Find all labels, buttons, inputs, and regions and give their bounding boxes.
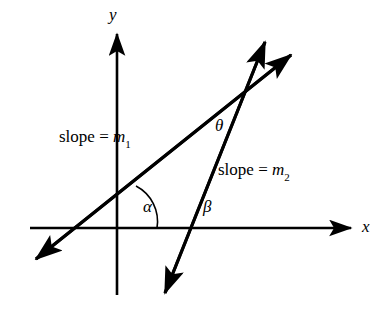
geometry-figure: y x α β θ slope = m1 slope = m2 [0, 0, 387, 320]
slope-1-text: slope = [59, 127, 113, 146]
slope-1-label: slope = m1 [59, 128, 131, 148]
figure-canvas [0, 0, 387, 320]
slope-1-subscript: 1 [125, 138, 131, 150]
slope-2-subscript: 2 [284, 171, 290, 183]
x-axis-label: x [362, 218, 370, 235]
slope-2-variable: m [272, 160, 284, 179]
y-axis-label: y [109, 6, 117, 23]
alpha-angle-label: α [143, 198, 152, 215]
slope-2-text: slope = [218, 160, 272, 179]
theta-angle-label: θ [215, 117, 223, 134]
slope-1-variable: m [113, 127, 125, 146]
slope-2-label: slope = m2 [218, 161, 290, 181]
beta-angle-label: β [203, 198, 211, 215]
